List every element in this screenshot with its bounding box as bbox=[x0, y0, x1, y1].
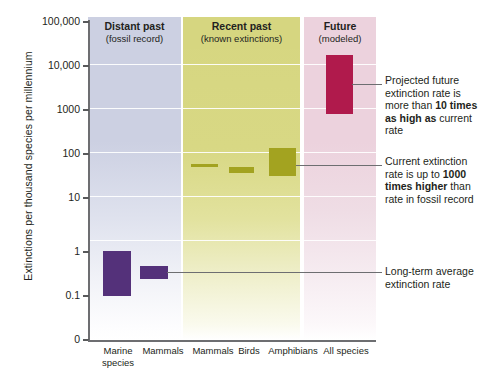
leader-line-future-note bbox=[352, 84, 382, 85]
annotation-future-line4-normal: current bbox=[436, 112, 472, 124]
annotation-current-line2: rate is up to 1000 bbox=[385, 168, 494, 181]
annotation-future-line3: more than 10 times bbox=[385, 99, 494, 112]
annotation-longterm-line1: Long-term average bbox=[385, 265, 494, 278]
bar-recent-amphibians bbox=[269, 148, 296, 176]
panel-header-recent-past: Recent past (known extinctions) bbox=[183, 17, 300, 49]
bar-recent-birds bbox=[229, 167, 254, 173]
y-tick-mark-1000 bbox=[83, 109, 89, 111]
gridline-10 bbox=[88, 196, 181, 197]
annotation-future-line4: as high as current bbox=[385, 112, 494, 125]
gridline-100 bbox=[88, 152, 181, 153]
bar-future-all-species bbox=[326, 55, 353, 114]
annotation-longterm-average: Long-term average extinction rate bbox=[385, 265, 494, 290]
annotation-future-rate: Projected future extinction rate is more… bbox=[385, 74, 494, 137]
annotation-current-line1: Current extinction bbox=[385, 155, 494, 168]
y-tick-label-1: 1 bbox=[18, 245, 80, 257]
y-tick-label-0-1: 0.1 bbox=[18, 289, 80, 301]
y-tick-mark-10 bbox=[83, 197, 89, 199]
gridline-100 bbox=[304, 152, 376, 153]
leader-line-longterm-note bbox=[167, 272, 382, 273]
y-tick-label-100: 100 bbox=[18, 147, 80, 159]
gridline-10000 bbox=[183, 64, 300, 65]
y-axis-line bbox=[88, 20, 90, 340]
y-tick-mark-100 bbox=[83, 153, 89, 155]
annotation-current-line4: rate in fossil record bbox=[385, 193, 494, 206]
panel-distant-past bbox=[88, 20, 181, 340]
panel-header-future: Future (modeled) bbox=[304, 17, 376, 49]
panel-recent-past bbox=[183, 20, 300, 340]
annotation-current-line2-normal: rate is up to bbox=[385, 168, 443, 180]
x-label-future-all-species: All species bbox=[315, 345, 377, 357]
annotation-current-line3-bold: times higher bbox=[385, 180, 447, 192]
panel-title-distant: Distant past bbox=[88, 20, 181, 33]
bar-recent-mammals bbox=[191, 164, 218, 167]
panel-subtitle-recent: (known extinctions) bbox=[183, 33, 300, 45]
annotation-longterm-line2: extinction rate bbox=[385, 278, 494, 291]
y-tick-label-1000: 1000 bbox=[18, 103, 80, 115]
panel-subtitle-distant: (fossil record) bbox=[88, 33, 181, 45]
x-axis-line bbox=[88, 340, 376, 342]
annotation-current-rate: Current extinction rate is up to 1000 ti… bbox=[385, 155, 494, 205]
y-tick-mark-10000 bbox=[83, 65, 89, 67]
gridline-1000 bbox=[88, 108, 181, 109]
panel-header-distant-past: Distant past (fossil record) bbox=[88, 17, 181, 49]
leader-line-current-note bbox=[296, 165, 382, 166]
y-tick-label-100000: 100,000 bbox=[18, 15, 80, 27]
gridline-1000 bbox=[183, 108, 300, 109]
y-tick-label-0: 0 bbox=[18, 333, 80, 345]
y-tick-mark-1 bbox=[83, 251, 89, 253]
gridline-1 bbox=[304, 240, 376, 241]
gridline-10 bbox=[304, 196, 376, 197]
annotation-future-line4-bold: as high as bbox=[385, 112, 436, 124]
y-tick-label-10: 10 bbox=[18, 191, 80, 203]
gridline-1 bbox=[183, 240, 300, 241]
extinction-rate-chart: Extinctions per thousand species per mil… bbox=[0, 0, 494, 384]
y-tick-label-10000: 10,000 bbox=[18, 59, 80, 71]
panel-subtitle-future: (modeled) bbox=[304, 33, 376, 45]
gridline-10 bbox=[183, 196, 300, 197]
annotation-current-line3-normal: than bbox=[447, 180, 470, 192]
annotation-future-line3-bold: 10 times bbox=[435, 99, 477, 111]
annotation-future-line3-normal: more than bbox=[385, 99, 435, 111]
x-label-marine-species-line2: species bbox=[92, 357, 144, 369]
annotation-future-line1: Projected future bbox=[385, 74, 494, 87]
annotation-current-line3: times higher than bbox=[385, 180, 494, 193]
annotation-future-line2: extinction rate is bbox=[385, 87, 494, 100]
bar-distant-marine-species bbox=[103, 251, 131, 296]
y-tick-mark-100000 bbox=[83, 21, 89, 23]
panel-title-recent: Recent past bbox=[183, 20, 300, 33]
annotation-current-line2-bold: 1000 bbox=[443, 168, 466, 180]
gridline-1 bbox=[88, 240, 181, 241]
gridline-10000 bbox=[88, 64, 181, 65]
annotation-future-line5: rate bbox=[385, 124, 494, 137]
panel-title-future: Future bbox=[304, 20, 376, 33]
y-tick-mark-0-1 bbox=[83, 295, 89, 297]
bar-distant-mammals bbox=[140, 266, 168, 279]
x-label-distant-mammals: Mammals bbox=[136, 345, 190, 357]
